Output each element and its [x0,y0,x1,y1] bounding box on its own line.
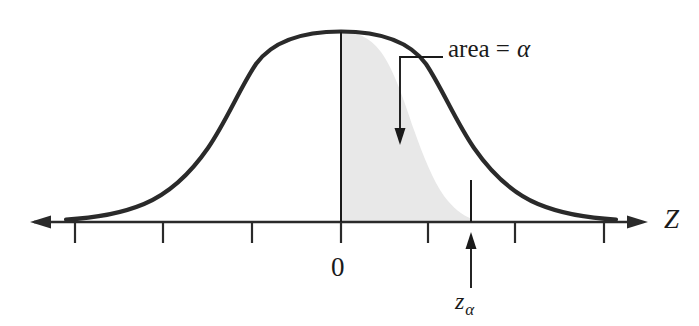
axis-ticks [75,222,604,243]
alpha-symbol: α [517,35,530,62]
critical-value-label: zα [455,289,474,318]
axis-right-arrowhead [627,216,648,229]
area-annotation-label: area =α [448,36,530,61]
mean-tick-label: 0 [331,254,345,281]
normal-distribution-figure: area =α 0 zα Z [0,0,699,326]
critical-value-pointer-arrowhead [466,232,477,249]
critical-value-subscript: α [465,300,474,319]
area-annotation-text: area = [448,35,510,62]
z-axis-label: Z [664,206,679,233]
distribution-plot [0,0,699,326]
axis-left-arrowhead [30,216,51,229]
critical-value-base: z [455,288,464,314]
